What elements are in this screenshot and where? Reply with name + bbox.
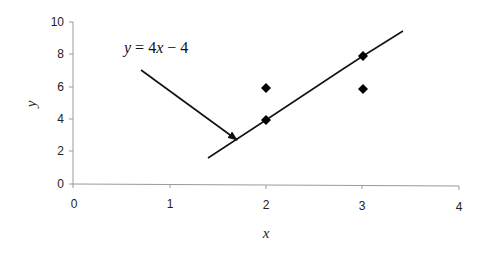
annotation-arrow [141, 70, 237, 140]
x-tick: 3 [359, 199, 366, 213]
x-axis-title: x [262, 225, 270, 241]
x-tick: 4 [456, 200, 463, 214]
trend-line [208, 31, 403, 158]
y-tick: 8 [57, 47, 64, 61]
y-tick: 2 [57, 144, 64, 158]
x-tick-labels: 0 1 2 3 4 [71, 197, 463, 214]
y-tick: 6 [57, 80, 64, 94]
y-tick: 4 [57, 112, 64, 126]
y-axis-title: y [23, 100, 39, 109]
chart: 10 8 6 4 2 0 0 1 2 3 4 x y y = 4x − 4 [0, 0, 485, 255]
x-tick: 0 [71, 197, 78, 211]
point-marker [358, 51, 368, 61]
x-tick: 2 [263, 198, 270, 212]
y-axis [69, 22, 73, 184]
y-tick-labels: 10 8 6 4 2 0 [51, 15, 65, 191]
point-marker [261, 83, 271, 93]
y-tick: 10 [51, 15, 65, 29]
x-axis [73, 184, 459, 190]
point-marker [358, 84, 368, 94]
y-tick: 0 [57, 177, 64, 191]
x-tick: 1 [167, 197, 174, 211]
equation-label: y = 4x − 4 [122, 39, 188, 57]
point-marker [261, 115, 271, 125]
